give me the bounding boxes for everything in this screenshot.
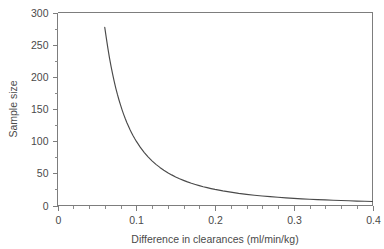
x-tick-label: 0.4	[366, 214, 381, 226]
y-tick-label: 300	[31, 7, 49, 19]
y-tick-label: 150	[31, 103, 49, 115]
x-tick-label: 0.3	[287, 214, 302, 226]
y-tick-label: 250	[31, 39, 49, 51]
y-tick-label: 50	[37, 167, 49, 179]
x-tick-label: 0.1	[129, 214, 144, 226]
y-tick-label: 100	[31, 135, 49, 147]
x-tick-label: 0.2	[208, 214, 223, 226]
x-tick-label: 0	[56, 214, 62, 226]
sample-size-chart: 050100150200250300 00.10.20.30.4 Sample …	[0, 0, 384, 249]
y-axis-title: Sample size	[7, 80, 19, 137]
y-tick-label: 0	[43, 200, 49, 212]
y-tick-label: 200	[31, 71, 49, 83]
figure-container: 050100150200250300 00.10.20.30.4 Sample …	[0, 0, 384, 249]
x-axis-title: Difference in clearances (ml/min/kg)	[131, 233, 298, 245]
